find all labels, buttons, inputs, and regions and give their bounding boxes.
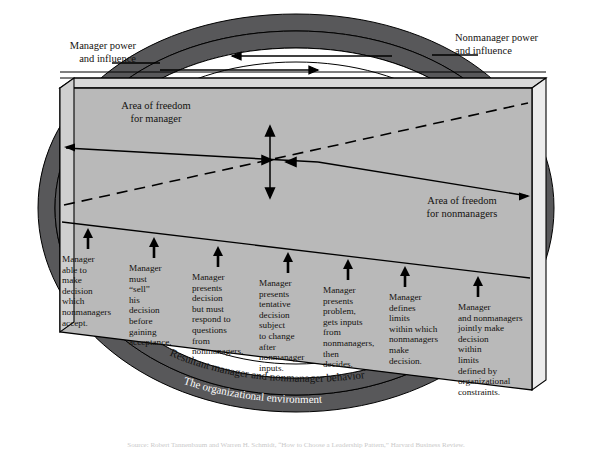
continuum-column-2: Manager must “sell” his decision before … <box>129 263 187 348</box>
label-area-of-freedom-for-nonmanagers: Area of freedom for nonmanagers <box>392 194 532 220</box>
continuum-column-4: Manager presents tentative decision subj… <box>259 278 325 373</box>
continuum-column-7: Manager and nonmanagers jointly make dec… <box>458 302 534 397</box>
label-manager-power-and-influence: Manager power and influence <box>8 40 136 65</box>
label-area-of-freedom-for-manager: Area of freedom for manager <box>96 99 216 125</box>
continuum-column-1: Manager able to make decision which nonm… <box>62 254 124 328</box>
continuum-column-5: Manager presents problem, gets inputs fr… <box>323 285 389 370</box>
continuum-column-6: Manager defines limits within which nonm… <box>389 292 457 366</box>
figure-source-caption: Source: Robert Tannenbaum and Warren H. … <box>0 441 592 449</box>
figure-canvas: Resultant manager and nonmanager behavio… <box>0 0 592 453</box>
box-right-face <box>532 78 546 390</box>
box-top-face <box>60 78 546 88</box>
continuum-column-3: Manager presents decision but must respo… <box>192 272 258 357</box>
label-nonmanager-power-and-influence: Nonmanager power and influence <box>455 32 590 57</box>
